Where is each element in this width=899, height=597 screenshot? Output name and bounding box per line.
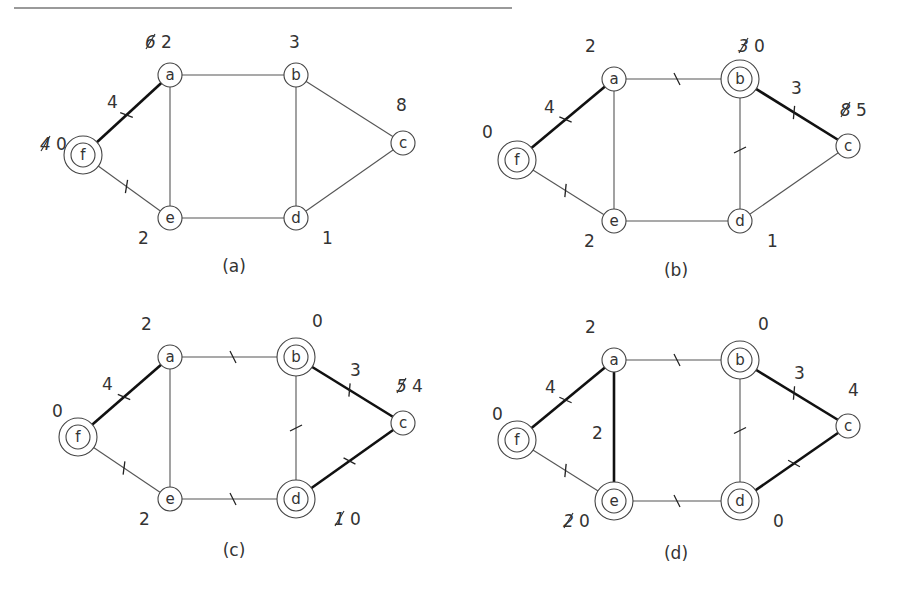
edge-weight-label: 3 <box>794 363 805 383</box>
node-e: e2 <box>138 206 182 248</box>
node-label: d <box>291 209 301 227</box>
node-label: c <box>399 134 407 152</box>
node-label: e <box>609 212 618 230</box>
node-label: b <box>735 351 745 369</box>
panel-c: 43f0a2b0c54e2d10(c) <box>52 311 423 560</box>
node-a: a2 <box>585 36 626 91</box>
edge-a-e: 2 <box>592 360 614 501</box>
edge-c-d <box>296 143 403 218</box>
edge-weight-label: 3 <box>791 78 802 98</box>
node-e: e20 <box>563 482 633 531</box>
node-distance: 8 <box>396 95 407 115</box>
node-a: a2 <box>141 314 182 369</box>
node-a: a62 <box>145 32 182 87</box>
node-d: d1 <box>728 209 778 251</box>
edge-tick-mark <box>559 117 571 122</box>
edge-weight-label: 4 <box>102 374 113 394</box>
node-distance: 0 <box>773 511 784 531</box>
panel-d: 423f0a2b0c4e20d0(d) <box>492 314 860 563</box>
node-distance: 1 <box>322 228 333 248</box>
node-c: c85 <box>836 100 867 158</box>
node-distance: 3 <box>289 32 300 52</box>
node-label: b <box>735 70 745 88</box>
node-label: f <box>514 431 520 449</box>
panel-caption: (b) <box>664 260 688 280</box>
node-label: c <box>844 137 852 155</box>
node-label: e <box>165 209 174 227</box>
node-distance: 4 <box>412 376 423 396</box>
node-a: a2 <box>585 317 626 372</box>
node-distance: 0 <box>492 404 503 424</box>
node-distance: 1 <box>767 231 778 251</box>
edge-c-d <box>740 426 848 501</box>
node-distance: 2 <box>585 317 596 337</box>
node-d: d0 <box>721 482 784 531</box>
edge-c-d <box>740 146 848 221</box>
panel-a: 4f40a62b3c8e2d1(a) <box>40 32 415 276</box>
node-label: c <box>844 417 852 435</box>
node-distance: 2 <box>141 314 152 334</box>
node-label: f <box>75 428 81 446</box>
edge-b-d <box>734 79 746 221</box>
node-distance: 2 <box>139 509 150 529</box>
node-b: b30 <box>721 36 765 98</box>
node-distance: 0 <box>758 314 769 334</box>
node-distance: 0 <box>482 122 493 142</box>
node-label: b <box>291 66 301 84</box>
edge-weight-label: 4 <box>544 97 555 117</box>
panel-caption: (d) <box>664 543 688 563</box>
node-d: d10 <box>277 480 361 529</box>
edge-tick-mark <box>793 106 794 119</box>
edge-b-d <box>734 360 746 501</box>
edge-tick-mark <box>123 461 125 474</box>
graph-figure: 4f40a62b3c8e2d1(a)43f0a2b30c85e2d1(b)43f… <box>0 0 899 597</box>
node-c: c8 <box>391 95 415 155</box>
node-label: f <box>514 151 520 169</box>
edge-b-c <box>296 75 403 143</box>
node-distance: 2 <box>161 32 172 52</box>
node-e: e2 <box>139 487 182 529</box>
node-distance: 0 <box>754 36 765 56</box>
node-distance: 0 <box>52 401 63 421</box>
edge-tick-mark <box>349 383 350 396</box>
edge-weight-label: 4 <box>545 377 556 397</box>
node-distance: 0 <box>56 134 67 154</box>
node-distance: 0 <box>312 311 323 331</box>
panel-b: 43f0a2b30c85e2d1(b) <box>482 36 867 280</box>
node-f: f0 <box>52 401 97 456</box>
node-label: c <box>399 414 407 432</box>
node-label: a <box>609 351 618 369</box>
edge-weight-label: 2 <box>592 423 603 443</box>
node-b: b0 <box>277 311 323 376</box>
node-e: e2 <box>584 209 626 251</box>
node-b: b0 <box>721 314 769 379</box>
edge-weight-label: 4 <box>107 92 118 112</box>
node-distance: 0 <box>350 509 361 529</box>
node-label: d <box>735 492 745 510</box>
edge-tick-mark <box>565 464 566 477</box>
node-f: f0 <box>482 122 536 179</box>
edge-weight-label: 3 <box>350 360 361 380</box>
node-label: d <box>291 490 301 508</box>
node-distance: 0 <box>579 511 590 531</box>
node-label: a <box>165 66 174 84</box>
node-distance: 5 <box>856 100 867 120</box>
node-f: f0 <box>492 404 536 459</box>
node-distance: 2 <box>585 36 596 56</box>
node-label: a <box>165 348 174 366</box>
edge-b-d <box>290 357 302 499</box>
node-d: d1 <box>284 206 333 248</box>
panel-caption: (a) <box>222 256 246 276</box>
edge-tick-mark <box>793 386 794 399</box>
node-c: c54 <box>391 376 423 435</box>
node-label: b <box>291 348 301 366</box>
node-label: a <box>609 70 618 88</box>
node-label: d <box>735 212 745 230</box>
node-distance: 2 <box>138 228 149 248</box>
node-label: f <box>80 146 86 164</box>
node-label: e <box>609 492 618 510</box>
node-b: b3 <box>284 32 308 87</box>
edge-c-d <box>296 423 403 499</box>
node-c: c4 <box>836 380 860 438</box>
node-f: f40 <box>40 134 102 174</box>
